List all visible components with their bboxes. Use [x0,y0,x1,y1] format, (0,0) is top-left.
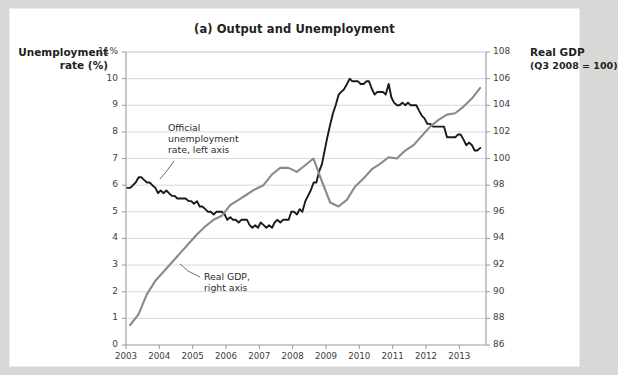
ytick-label-right: 106 [493,74,519,83]
ytick-label-left: 10 [92,74,118,83]
xtick-label: 2012 [409,352,443,361]
ytick-label-right: 88 [493,313,519,322]
xtick-label: 2006 [209,352,243,361]
figure-card: (a) Output and Unemployment Unemployment… [10,9,579,366]
ytick-label-left: 2 [92,287,118,296]
ytick-label-right: 94 [493,233,519,242]
xtick-label: 2011 [376,352,410,361]
ytick-label-left: 8 [92,127,118,136]
ytick-label-left: 7 [92,154,118,163]
ytick-label-right: 102 [493,127,519,136]
ytick-label-right: 86 [493,340,519,349]
ytick-label-left: 9 [92,100,118,109]
ytick-label-right: 96 [493,207,519,216]
ytick-label-right: 108 [493,47,519,56]
ytick-label-left: 0 [92,340,118,349]
xtick-label: 2008 [276,352,310,361]
ytick-label-left: 11% [92,47,118,56]
ytick-label-right: 104 [493,100,519,109]
leader-line-gdp [180,264,200,277]
xtick-label: 2005 [176,352,210,361]
ytick-label-left: 1 [92,313,118,322]
xtick-label: 2010 [342,352,376,361]
xtick-label: 2003 [109,352,143,361]
ytick-label-left: 5 [92,207,118,216]
xtick-label: 2007 [242,352,276,361]
ytick-label-left: 6 [92,180,118,189]
xtick-label: 2009 [309,352,343,361]
leader-line-unemployment [160,161,174,179]
ytick-label-right: 90 [493,287,519,296]
ytick-label-right: 92 [493,260,519,269]
xtick-label: 2013 [442,352,476,361]
series-line-unemployment [127,79,480,228]
ytick-label-right: 98 [493,180,519,189]
ytick-label-left: 4 [92,233,118,242]
ytick-label-left: 3 [92,260,118,269]
xtick-label: 2004 [142,352,176,361]
ytick-label-right: 100 [493,154,519,163]
